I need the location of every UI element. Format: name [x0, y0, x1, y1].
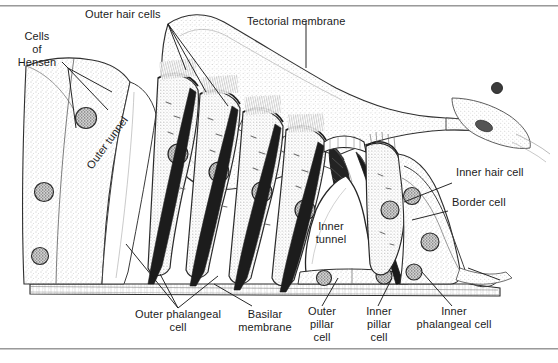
label-inner-pillar-cell: Inner pillar cell	[354, 305, 404, 344]
label-basilar-membrane: Basilar membrane	[226, 308, 304, 334]
inner-hair-cell	[366, 132, 405, 275]
basilar-membrane	[30, 284, 500, 296]
label-inner-hair-cell: Inner hair cell	[456, 166, 524, 179]
label-outer-pillar-cell: Outer pillar cell	[296, 305, 348, 344]
label-tectorial-membrane: Tectorial membrane	[247, 15, 345, 28]
label-inner-tunnel: Inner tunnel	[303, 220, 359, 246]
inner-phalangeal-cell	[398, 154, 461, 284]
figure-organ-of-corti: Cells of Hensen Outer hair cells Tectori…	[0, 0, 558, 363]
bottom-rule-shadow	[0, 349, 558, 350]
label-cells-of-hensen: Cells of Hensen	[4, 30, 70, 69]
label-inner-phalangeal-cell: Inner phalangeal cell	[400, 305, 508, 331]
label-border-cell: Border cell	[452, 196, 506, 209]
spiral-limbus-wedge	[452, 83, 550, 163]
label-outer-hair-cells: Outer hair cells	[85, 8, 161, 21]
